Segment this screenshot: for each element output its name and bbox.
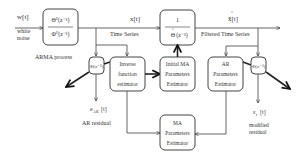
ar-residual-label: e AR [t] AR residual bbox=[82, 106, 111, 126]
phi-right-block: Φ(z⁻¹) bbox=[251, 57, 266, 74]
phi-left-block: Φ(z⁻¹) bbox=[89, 57, 104, 74]
ar-estimator-block: AR Parameters Estimator bbox=[208, 57, 243, 91]
ma-estimator-block: MA Parameters Estimator bbox=[160, 115, 195, 150]
inverse-ma-filter-block: 1 Θ (z⁻¹) ^ bbox=[160, 10, 195, 45]
inverse-ma-box bbox=[160, 10, 195, 45]
initial-ma-estimator-block: Initial MA Parameters Estimator bbox=[160, 57, 195, 91]
input-signal-label: w[t] bbox=[17, 13, 29, 21]
input-desc-line1: white bbox=[17, 28, 31, 34]
branch-to-ar-estimator bbox=[226, 46, 258, 56]
arma-block-diagram: w[t] white noise Θ°(z⁻¹) Φ°(z⁻¹) ARMA pr… bbox=[0, 0, 306, 162]
arma-caption: ARMA process bbox=[35, 54, 73, 60]
ar-estimator-line2: Parameters bbox=[213, 71, 237, 77]
inverse-fn-line3: estimator bbox=[117, 81, 138, 87]
initial-ma-line3: Estimator bbox=[167, 81, 189, 87]
inverse-ma-denominator-arg: (z⁻¹) bbox=[176, 32, 187, 39]
modified-residual-caption-line2: residual bbox=[249, 129, 267, 135]
ar-residual-arg: [t] bbox=[101, 106, 107, 113]
inverse-to-ma-estimator-arrow bbox=[127, 91, 160, 133]
ma-estimator-line2: Parameters bbox=[165, 130, 189, 136]
filtered-signal: x̂[t] bbox=[228, 15, 238, 23]
arma-denominator: Φ°(z⁻¹) bbox=[51, 31, 69, 38]
modified-residual-subscript: t bbox=[256, 112, 258, 117]
time-series-signal: x[t] bbox=[130, 15, 140, 23]
ma-estimator-line3: Estimator bbox=[167, 140, 189, 146]
ar-to-ma-estimator-arrow bbox=[195, 91, 226, 134]
ar-residual-subscript: AR bbox=[93, 109, 99, 114]
inverse-to-phi-left-line bbox=[104, 62, 110, 64]
ar-residual-caption: AR residual bbox=[82, 120, 111, 126]
phi-left-label: Φ(z⁻¹) bbox=[90, 64, 104, 69]
phi-right-output-arrow bbox=[266, 72, 290, 89]
filtered-caption: Filtered Time Series bbox=[201, 31, 250, 37]
ma-estimator-line1: MA bbox=[173, 120, 182, 126]
modified-residual-label: ε t [t] modified residual bbox=[249, 109, 269, 135]
modified-residual-arg: [t] bbox=[260, 109, 266, 116]
ar-estimator-line3: Estimator bbox=[215, 81, 237, 87]
ar-to-phi-right-line bbox=[243, 62, 251, 65]
input-signal-group: w[t] white noise bbox=[15, 13, 43, 41]
phi-left-output-arrow bbox=[66, 72, 89, 87]
arma-numerator: Θ°(z⁻¹) bbox=[51, 17, 69, 24]
inverse-function-estimator-block: Inverse function estimator bbox=[110, 57, 145, 91]
time-series-caption: Time Series bbox=[110, 31, 139, 37]
modified-residual-caption-line1: modified bbox=[249, 122, 269, 128]
inverse-fn-line1: Inverse bbox=[119, 61, 136, 67]
arma-process-block: Θ°(z⁻¹) Φ°(z⁻¹) ARMA process bbox=[35, 9, 78, 60]
input-desc-line2: noise bbox=[17, 35, 30, 41]
phi-right-label: Φ(z⁻¹) bbox=[252, 64, 266, 69]
initial-ma-line1: Initial MA bbox=[166, 61, 189, 67]
inverse-ma-numerator: 1 bbox=[176, 17, 179, 23]
ar-estimator-line1: AR bbox=[222, 61, 230, 67]
initial-ma-line2: Parameters bbox=[165, 71, 189, 77]
branch-to-inverse-function bbox=[96, 45, 127, 56]
inverse-ma-denominator-base: Θ bbox=[171, 32, 176, 38]
inverse-fn-line2: function bbox=[118, 71, 137, 77]
